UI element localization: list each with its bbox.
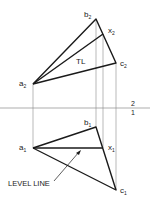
true-length-diagram: 2 1 TL b2 x2 c2 a2 b1 x1 c1 a1 LEVEL LIN…	[0, 0, 158, 204]
label-c2: c2	[120, 59, 127, 69]
leader-arrow	[54, 150, 81, 181]
label-x2: x2	[108, 26, 115, 36]
label-a1: a1	[19, 143, 26, 153]
true-length-line	[33, 34, 103, 84]
top-view-labels: b2 x2 c2 a2	[19, 10, 127, 89]
label-c1: c1	[120, 186, 127, 196]
label-a2: a2	[19, 79, 26, 89]
top-view-triangle	[33, 19, 116, 84]
projection-lines	[33, 19, 116, 190]
label-b2: b2	[84, 10, 91, 20]
label-x1: x1	[108, 143, 115, 153]
folding-label-1: 1	[131, 109, 135, 116]
label-b1: b1	[84, 118, 91, 128]
tl-label: TL	[76, 57, 86, 66]
folding-label-2: 2	[131, 100, 135, 107]
level-line-label: LEVEL LINE	[8, 179, 50, 188]
